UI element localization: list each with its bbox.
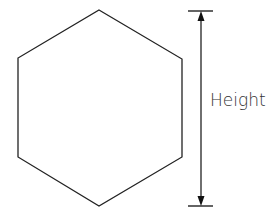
hexagon-shape	[18, 10, 182, 206]
height-label: Height	[210, 90, 266, 110]
hexagon-height-diagram: Height	[0, 0, 276, 222]
